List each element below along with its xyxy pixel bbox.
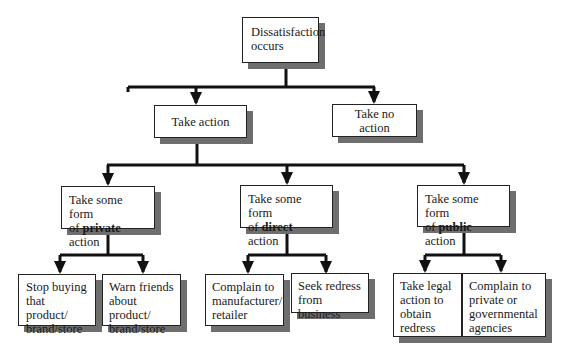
private-action-box: Take some form of private action — [61, 186, 155, 229]
leaf-line: Take legal — [400, 279, 455, 293]
direct-action-line1: Take some form — [248, 192, 325, 220]
leaf-line: brand/store — [26, 322, 88, 336]
public-action-box: Take some form of public action — [417, 185, 510, 227]
private-keyword: private — [83, 221, 121, 235]
leaf-line: action to — [400, 293, 455, 307]
leaf-warn-friends: Warn friends about product/ brand/store — [102, 274, 181, 326]
leaf-line: Warn friends — [109, 280, 174, 294]
leaf-stop-buying: Stop buying that product/ brand/store — [18, 274, 96, 326]
public-action-line2: of public action — [425, 220, 502, 248]
root-line2: occurs — [251, 39, 310, 53]
leaf-line: that product/ — [26, 294, 88, 322]
leaf-line: agencies — [469, 321, 539, 335]
leaf-line: brand/store — [109, 322, 174, 336]
leaf-line: about product/ — [109, 294, 174, 322]
leaf-line: redress — [400, 321, 455, 335]
leaf-complain-manufacturer: Complain to manufacturer/ retailer — [205, 274, 284, 326]
leaf-line: retailer — [212, 308, 277, 322]
take-action-box: Take action — [154, 105, 247, 138]
leaf-seek-redress: Seek redress from business — [291, 273, 369, 313]
private-action-line1: Take some form — [69, 193, 147, 221]
public-keyword: public — [439, 220, 472, 234]
public-action-line1: Take some form — [425, 192, 502, 220]
leaf-line: from business — [298, 293, 362, 321]
leaf-line: manufacturer/ — [212, 294, 277, 308]
leaf-line: Complain to — [212, 280, 277, 294]
direct-action-line2: of direct action — [248, 220, 325, 248]
take-action-label: Take action — [172, 115, 230, 129]
leaf-line: obtain — [400, 307, 455, 321]
leaf-line: Seek redress — [298, 279, 362, 293]
direct-keyword: direct — [262, 220, 293, 234]
root-box-dissatisfaction-occurs: Dissatisfaction occurs — [242, 17, 319, 63]
take-no-action-label: Take no action — [339, 107, 410, 135]
private-action-line2: of private action — [69, 221, 147, 249]
leaf-complain-agencies: Complain to private or governmental agen… — [462, 273, 546, 337]
leaf-line: private or — [469, 293, 539, 307]
root-line1: Dissatisfaction — [251, 25, 310, 39]
leaf-line: governmental — [469, 307, 539, 321]
leaf-line: Stop buying — [26, 280, 88, 294]
leaf-line: Complain to — [469, 279, 539, 293]
take-no-action-box: Take no action — [332, 104, 417, 137]
leaf-take-legal-action: Take legal action to obtain redress — [393, 273, 462, 337]
direct-action-box: Take some form of direct action — [240, 185, 333, 228]
